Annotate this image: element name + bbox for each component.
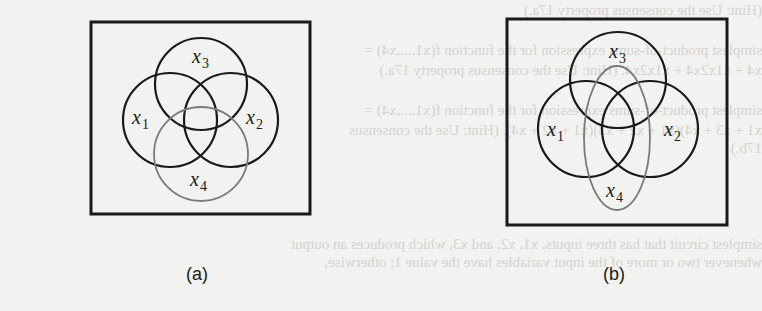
set-x4-ellipse xyxy=(584,66,650,210)
caption-b: (b) xyxy=(603,264,625,285)
label-x4: x4 xyxy=(189,168,207,194)
caption-a: (a) xyxy=(186,264,208,285)
venn-diagram-a: x1x2x3x4 xyxy=(91,22,310,214)
venn-figure: x1x2x3x4 x1x2x3x4 xyxy=(0,0,762,311)
label-x2: x2 xyxy=(245,106,263,132)
venn-diagram-b: x1x2x3x4 xyxy=(507,19,727,225)
label-x1: x1 xyxy=(546,118,564,144)
label-x2: x2 xyxy=(663,118,681,144)
label-x3: x3 xyxy=(608,40,626,66)
label-x3: x3 xyxy=(191,45,209,71)
label-x1: x1 xyxy=(131,106,149,132)
label-x4: x4 xyxy=(605,179,623,205)
